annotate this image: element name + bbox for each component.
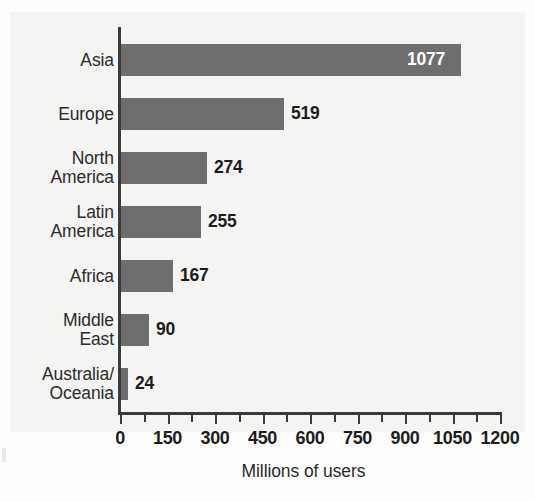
bar-value-label: 1077 bbox=[407, 49, 445, 70]
x-tick-major bbox=[120, 415, 122, 424]
x-tick-minor bbox=[381, 415, 383, 422]
x-tick-minor bbox=[144, 415, 146, 422]
bar-value-label: 167 bbox=[180, 265, 209, 286]
x-axis-title: Millions of users bbox=[0, 461, 535, 482]
x-tick-major bbox=[168, 415, 170, 424]
bar-value-label: 255 bbox=[208, 211, 237, 232]
x-tick-major bbox=[310, 415, 312, 424]
bar-value-label: 24 bbox=[135, 373, 154, 394]
x-tick-label: 600 bbox=[295, 428, 324, 449]
category-label: Australia/ Oceania bbox=[2, 365, 114, 403]
x-tick-major bbox=[215, 415, 217, 424]
x-tick-label: 900 bbox=[390, 428, 419, 449]
bar bbox=[120, 260, 173, 292]
category-label: Africa bbox=[2, 267, 114, 286]
bar-chart: Asia1077Europe519North America274Latin A… bbox=[0, 0, 535, 501]
category-label: North America bbox=[2, 149, 114, 187]
bar-value-label: 274 bbox=[214, 157, 243, 178]
bar bbox=[120, 314, 149, 346]
x-tick-minor bbox=[191, 415, 193, 422]
x-tick-major bbox=[405, 415, 407, 424]
x-tick-label: 1050 bbox=[433, 428, 472, 449]
x-tick-major bbox=[263, 415, 265, 424]
x-tick-minor bbox=[429, 415, 431, 422]
bar-value-label: 519 bbox=[291, 103, 320, 124]
x-tick-minor bbox=[239, 415, 241, 422]
category-label: Middle East bbox=[2, 311, 114, 349]
x-tick-label: 1200 bbox=[481, 428, 520, 449]
category-label: Europe bbox=[2, 105, 114, 124]
bar-value-label: 90 bbox=[156, 319, 175, 340]
x-tick-label: 0 bbox=[115, 428, 125, 449]
x-tick-minor bbox=[476, 415, 478, 422]
y-axis-line bbox=[118, 27, 121, 414]
category-label: Latin America bbox=[2, 203, 114, 241]
category-label: Asia bbox=[2, 51, 114, 70]
x-tick-major bbox=[453, 415, 455, 424]
x-tick-label: 450 bbox=[248, 428, 277, 449]
x-tick-label: 300 bbox=[200, 428, 229, 449]
bar bbox=[120, 152, 207, 184]
bar bbox=[120, 368, 128, 400]
x-tick-minor bbox=[334, 415, 336, 422]
bar bbox=[120, 98, 284, 130]
x-tick-label: 150 bbox=[153, 428, 182, 449]
x-tick-major bbox=[500, 415, 502, 424]
x-tick-minor bbox=[286, 415, 288, 422]
x-tick-label: 750 bbox=[343, 428, 372, 449]
bar bbox=[120, 206, 201, 238]
scan-artifact bbox=[2, 448, 6, 462]
x-tick-major bbox=[358, 415, 360, 424]
